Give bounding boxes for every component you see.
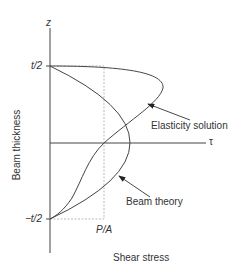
tau-axis-label: τ <box>209 137 213 147</box>
tick-bottom-label: −t/2 <box>25 214 42 224</box>
tick-top-label: t/2 <box>31 61 42 71</box>
elasticity-solution-label: Elasticity solution <box>151 121 228 131</box>
x-axis-title: Shear stress <box>113 253 169 263</box>
elasticity-arrow <box>148 104 190 120</box>
diagram-canvas <box>0 0 234 271</box>
pa-label: P/A <box>96 225 112 235</box>
z-axis-label: z <box>46 18 51 28</box>
shear-stress-diagram: z τ t/2 −t/2 P/A Elasticity solution Bea… <box>0 0 234 271</box>
beam-theory-label: Beam theory <box>126 197 183 207</box>
y-axis-title: Beam thickness <box>12 110 22 181</box>
beam-theory-arrow <box>119 176 150 197</box>
